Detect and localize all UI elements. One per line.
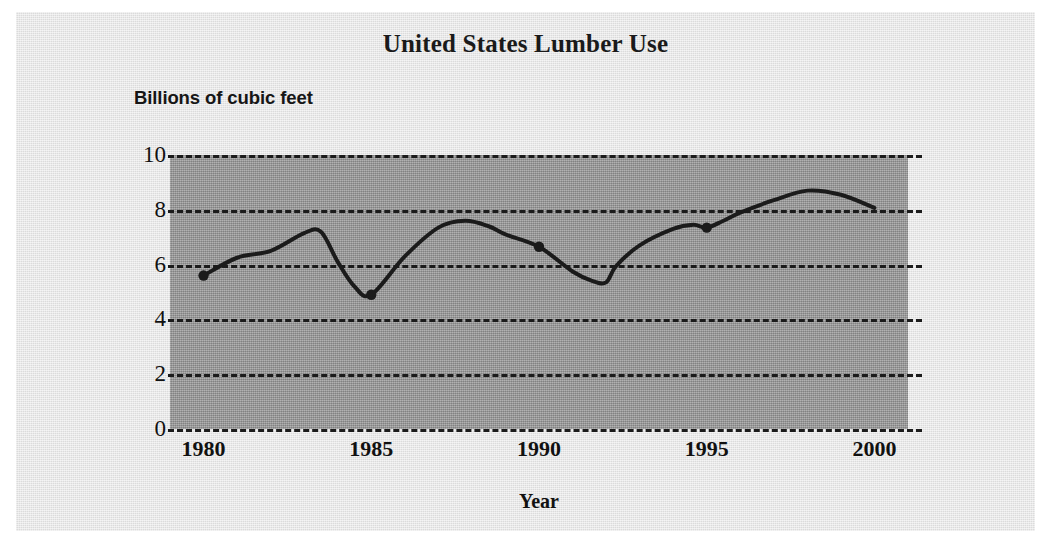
y-tick-label: 2 xyxy=(155,361,167,387)
x-axis-tick-labels: 19801985199019952000 xyxy=(170,436,908,466)
data-point-marker xyxy=(198,270,208,280)
y-axis-tick-labels: 0246810 xyxy=(136,155,166,429)
page-title: United States Lumber Use xyxy=(16,30,1035,58)
x-tick-label: 1985 xyxy=(349,436,393,462)
y-tick-label: 8 xyxy=(155,197,167,223)
data-point-marker xyxy=(534,242,544,252)
data-point-marker xyxy=(366,290,376,300)
x-axis-title: Year xyxy=(170,490,908,513)
plot-area xyxy=(170,155,908,429)
figure-card: United States Lumber Use Billions of cub… xyxy=(16,12,1035,531)
y-tick-label: 0 xyxy=(155,416,167,442)
chart-screenshot: United States Lumber Use Billions of cub… xyxy=(0,0,1052,551)
gridline-y-0 xyxy=(168,429,922,432)
gridline-y-4 xyxy=(168,319,922,322)
gridline-y-6 xyxy=(168,265,922,268)
y-tick-label: 10 xyxy=(143,142,166,168)
x-tick-label: 2000 xyxy=(852,436,896,462)
data-point-marker xyxy=(702,222,712,232)
y-tick-label: 4 xyxy=(155,306,167,332)
data-series-line xyxy=(170,155,908,429)
x-tick-label: 1995 xyxy=(685,436,729,462)
x-tick-label: 1990 xyxy=(517,436,561,462)
y-axis-title: Billions of cubic feet xyxy=(134,87,313,109)
gridline-y-8 xyxy=(168,210,922,213)
gridline-y-2 xyxy=(168,374,922,377)
x-tick-label: 1980 xyxy=(182,436,226,462)
y-tick-label: 6 xyxy=(155,252,167,278)
gridline-y-10 xyxy=(168,155,922,158)
